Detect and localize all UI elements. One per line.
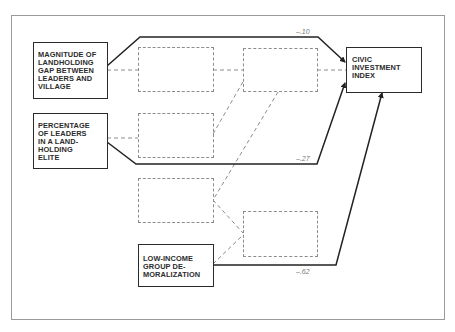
coefficient-gap: –.10 bbox=[296, 28, 310, 35]
path-diagram: MAGNITUDE OF LANDHOLDING GAP BETWEEN LEA… bbox=[0, 0, 455, 332]
dashed-box-1 bbox=[138, 47, 214, 92]
coefficient-elite: –.27 bbox=[296, 155, 310, 162]
dashed-box-3 bbox=[138, 113, 214, 158]
dashed-box-5 bbox=[243, 211, 318, 257]
coefficient-low-income: –.62 bbox=[296, 268, 310, 275]
node-civic-index-label: CIVIC INVESTMENT INDEX bbox=[352, 56, 401, 80]
node-landholding-elite-label: PERCENTAGE OF LEADERS IN A LAND- HOLDING… bbox=[38, 122, 90, 162]
node-landholding-gap-label: MAGNITUDE OF LANDHOLDING GAP BETWEEN LEA… bbox=[38, 51, 96, 91]
node-low-income-label: LOW-INCOME GROUP DE- MORALIZATION bbox=[143, 255, 200, 279]
dashed-box-2 bbox=[243, 48, 318, 92]
dashed-box-4 bbox=[138, 178, 214, 223]
